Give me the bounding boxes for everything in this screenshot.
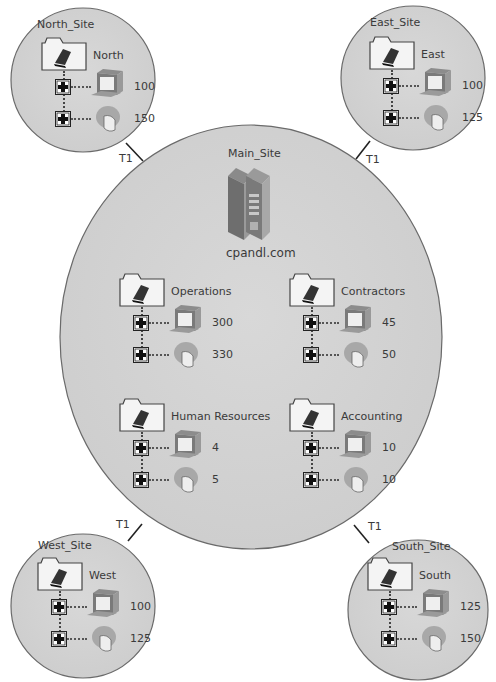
- ou-east[interactable]: East 100 125: [369, 34, 479, 144]
- computer-count: 10: [382, 441, 396, 454]
- tree-connector: [399, 85, 419, 87]
- plus-box-icon[interactable]: [383, 110, 399, 126]
- plus-box-icon[interactable]: [303, 315, 319, 331]
- plus-box-icon[interactable]: [133, 440, 149, 456]
- t1-label-west: T1: [116, 518, 130, 531]
- computer-monitor-icon: [339, 430, 373, 462]
- user-count: 330: [212, 348, 233, 361]
- t1-link-south: [354, 525, 369, 543]
- ou-north[interactable]: North 100 150: [41, 35, 151, 145]
- computer-monitor-icon: [419, 68, 453, 100]
- server-rack-icon: [228, 168, 270, 240]
- ou-folder-icon: [119, 396, 165, 432]
- tree-connector: [319, 354, 339, 356]
- user-head-icon: [341, 340, 371, 370]
- tree-connector: [71, 86, 91, 88]
- ou-folder-icon: [119, 271, 165, 307]
- plus-box-icon[interactable]: [55, 79, 71, 95]
- computer-count: 300: [212, 316, 233, 329]
- computer-monitor-icon: [339, 305, 373, 337]
- computer-count: 100: [130, 600, 151, 613]
- ou-south[interactable]: South 125 150: [367, 555, 477, 665]
- user-count: 150: [134, 112, 155, 125]
- ou-name: East: [421, 48, 445, 61]
- ou-contractors[interactable]: Contractors 45 50: [289, 271, 399, 381]
- user-head-icon: [89, 624, 119, 654]
- user-count: 5: [212, 473, 219, 486]
- tree-connector: [319, 322, 339, 324]
- plus-box-icon[interactable]: [51, 599, 67, 615]
- plus-box-icon[interactable]: [303, 472, 319, 488]
- computer-monitor-icon: [91, 69, 125, 101]
- t1-label-south: T1: [368, 520, 382, 533]
- west-site-title: West_Site: [38, 539, 92, 552]
- computer-count: 45: [382, 316, 396, 329]
- tree-connector: [149, 479, 169, 481]
- tree-connector: [399, 117, 419, 119]
- ou-name: Contractors: [341, 285, 405, 298]
- user-head-icon: [421, 103, 451, 133]
- user-head-icon: [341, 465, 371, 495]
- tree-connector: [67, 606, 87, 608]
- ou-name: West: [89, 569, 116, 582]
- computer-count: 4: [212, 441, 219, 454]
- plus-box-icon[interactable]: [381, 631, 397, 647]
- ou-folder-icon: [369, 34, 415, 70]
- tree-connector: [397, 606, 417, 608]
- tree-connector: [149, 354, 169, 356]
- user-count: 125: [462, 111, 483, 124]
- plus-box-icon[interactable]: [381, 599, 397, 615]
- ou-folder-icon: [289, 271, 335, 307]
- computer-monitor-icon: [169, 305, 203, 337]
- computer-count: 125: [460, 600, 481, 613]
- computer-monitor-icon: [417, 589, 451, 621]
- t1-label-east: T1: [366, 153, 380, 166]
- tree-connector: [397, 638, 417, 640]
- user-count: 150: [460, 632, 481, 645]
- main-site-title: Main_Site: [228, 147, 281, 160]
- user-count: 125: [130, 632, 151, 645]
- plus-box-icon[interactable]: [303, 440, 319, 456]
- computer-count: 100: [134, 80, 155, 93]
- plus-box-icon[interactable]: [55, 111, 71, 127]
- south-site-title: South_Site: [392, 540, 451, 553]
- plus-box-icon[interactable]: [133, 472, 149, 488]
- ou-folder-icon: [367, 555, 413, 591]
- ou-west[interactable]: West 100 125: [37, 555, 147, 665]
- plus-box-icon[interactable]: [133, 315, 149, 331]
- ou-folder-icon: [37, 555, 83, 591]
- ou-human-resources[interactable]: Human Resources 4 5: [119, 396, 279, 506]
- t1-label-north: T1: [119, 152, 133, 165]
- user-head-icon: [93, 104, 123, 134]
- computer-count: 100: [462, 79, 483, 92]
- ou-name: South: [419, 569, 451, 582]
- ou-name: Accounting: [341, 410, 402, 423]
- t1-link-west: [128, 524, 142, 541]
- computer-monitor-icon: [169, 430, 203, 462]
- tree-connector: [149, 447, 169, 449]
- computer-monitor-icon: [87, 589, 121, 621]
- north-site-title: North_Site: [37, 18, 94, 31]
- tree-connector: [149, 322, 169, 324]
- ou-name: Human Resources: [171, 410, 270, 423]
- ou-name: North: [93, 49, 124, 62]
- ou-operations[interactable]: Operations 300 330: [119, 271, 229, 381]
- ou-accounting[interactable]: Accounting 10 10: [289, 396, 399, 506]
- user-count: 10: [382, 473, 396, 486]
- plus-box-icon[interactable]: [383, 78, 399, 94]
- user-head-icon: [171, 340, 201, 370]
- tree-connector: [319, 447, 339, 449]
- ou-folder-icon: [289, 396, 335, 432]
- ou-folder-icon: [41, 35, 87, 71]
- plus-box-icon[interactable]: [51, 631, 67, 647]
- ou-name: Operations: [171, 285, 231, 298]
- user-head-icon: [419, 624, 449, 654]
- domain-name: cpandl.com: [226, 246, 296, 260]
- user-head-icon: [171, 465, 201, 495]
- user-count: 50: [382, 348, 396, 361]
- tree-connector: [67, 638, 87, 640]
- plus-box-icon[interactable]: [303, 347, 319, 363]
- tree-connector: [71, 118, 91, 120]
- east-site-title: East_Site: [370, 16, 420, 29]
- plus-box-icon[interactable]: [133, 347, 149, 363]
